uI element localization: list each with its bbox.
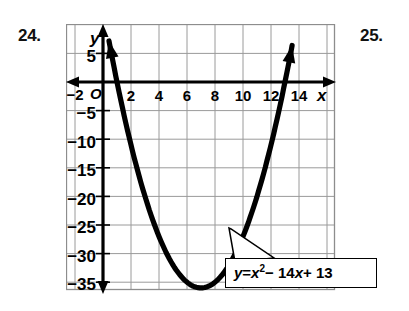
x-tick-label-14: 14	[285, 88, 313, 103]
origin-label: O	[90, 86, 102, 101]
equation-minus-term: − 14	[265, 264, 295, 281]
x-tick-label-10: 10	[229, 88, 257, 103]
callout-pointer-triangle	[229, 228, 274, 262]
equation-equals: =	[242, 264, 251, 281]
y-tick-label-neg30: −30	[54, 248, 96, 265]
y-axis-label: y	[90, 30, 99, 47]
x-tick-label-8: 8	[203, 88, 227, 103]
x-axis-label: x	[317, 87, 326, 104]
x-tick-label-6: 6	[175, 88, 199, 103]
y-tick-label-neg5: −5	[64, 105, 96, 122]
y-tick-label-neg15: −15	[54, 162, 96, 179]
x-tick-label-2: 2	[119, 88, 143, 103]
x-tick-label-4: 4	[147, 88, 171, 103]
x-tick-label-12: 12	[257, 88, 285, 103]
exercise-number-25: 25.	[360, 27, 383, 44]
y-tick-label-neg35: −35	[54, 276, 96, 293]
equation-plus-term: + 13	[303, 264, 333, 281]
equation-callout-box: y=x2− 14x+ 13	[225, 258, 377, 288]
y-tick-label-5: 5	[68, 48, 96, 65]
y-tick-label-neg20: −20	[54, 191, 96, 208]
plot-background	[66, 24, 336, 296]
exercise-number-24: 24.	[18, 27, 41, 44]
y-tick-label-neg10: −10	[54, 134, 96, 151]
parabola-graph-figure: 5 −5 −10 −15 −20 −25 −30 −35 −2 2 4 6 8 …	[66, 24, 336, 296]
graph-canvas	[66, 24, 336, 296]
equation-x-linear: x	[295, 264, 303, 281]
y-tick-label-neg25: −25	[54, 219, 96, 236]
equation-callout-text: y=x2− 14x+ 13	[234, 264, 333, 280]
x-tick-label-neg2: −2	[60, 87, 90, 102]
